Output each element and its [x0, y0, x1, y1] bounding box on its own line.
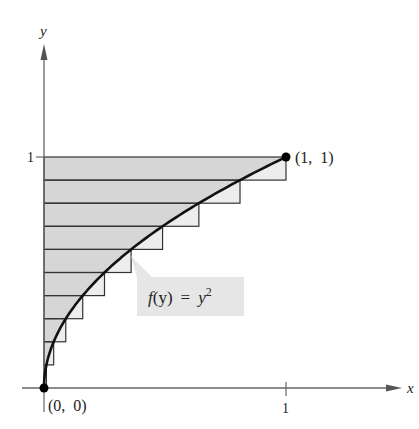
point-1-1	[282, 153, 291, 162]
point-origin	[40, 384, 49, 393]
y-axis-arrow-icon	[41, 44, 48, 60]
y-tick-label: 1	[27, 150, 34, 165]
point-origin-label: (0, 0)	[48, 397, 87, 415]
riemann-sum-figure: y x 1 1 (1, 1) (0, 0) f(y)=y2	[0, 0, 419, 429]
function-label: f(y)=y2	[148, 285, 212, 307]
callout-pointer	[131, 256, 152, 277]
y-axis-label: y	[38, 23, 47, 39]
x-tick-label: 1	[282, 401, 289, 416]
x-axis-label: x	[406, 380, 414, 396]
x-axis-arrow-icon	[386, 385, 402, 392]
plot-canvas: y x 1 1 (1, 1) (0, 0) f(y)=y2	[0, 0, 419, 429]
point-1-1-label: (1, 1)	[295, 149, 334, 167]
